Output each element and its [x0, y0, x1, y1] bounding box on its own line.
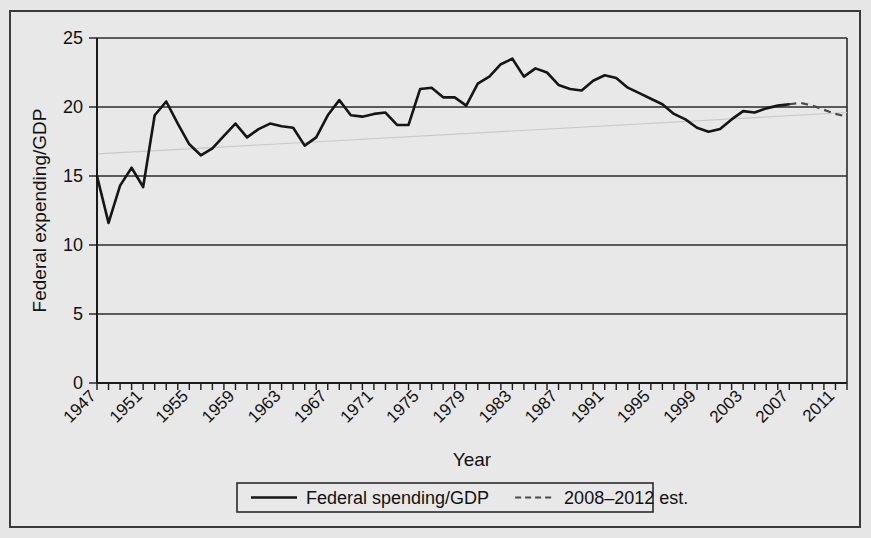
x-tick-label-1967: 1967 [290, 386, 330, 426]
x-tick-label-1975: 1975 [383, 386, 423, 426]
y-tick-label-15: 15 [63, 166, 83, 186]
y-axis-title: Federal expending/GDP [29, 109, 50, 313]
legend-label-0: Federal spending/GDP [306, 488, 489, 508]
y-tick-label-20: 20 [63, 97, 83, 117]
x-tick-label-1963: 1963 [244, 386, 284, 426]
x-axis-title: Year [453, 449, 492, 470]
x-tick-label-1971: 1971 [337, 386, 377, 426]
x-tick-label-1959: 1959 [198, 386, 238, 426]
x-tick-label-2003: 2003 [706, 386, 746, 426]
x-tick-label-1951: 1951 [106, 386, 146, 426]
x-tick-label-1995: 1995 [613, 386, 653, 426]
x-tick-label-2011: 2011 [799, 386, 838, 425]
x-tick-label-1979: 1979 [429, 386, 469, 426]
x-tick-label-1947: 1947 [60, 386, 100, 426]
legend-label-1: 2008–2012 est. [564, 488, 688, 508]
y-tick-label-5: 5 [73, 304, 83, 324]
y-tick-label-10: 10 [63, 235, 83, 255]
x-tick-label-1991: 1991 [567, 386, 607, 426]
line-chart: 0510152025194719511955195919631967197119… [0, 0, 871, 538]
x-tick-label-1983: 1983 [475, 386, 515, 426]
x-tick-label-1955: 1955 [152, 386, 192, 426]
plot-area-background [97, 38, 847, 383]
y-tick-label-25: 25 [63, 28, 83, 48]
figure-page: 0510152025194719511955195919631967197119… [0, 0, 871, 538]
x-tick-label-1999: 1999 [660, 386, 700, 426]
x-tick-label-1987: 1987 [521, 386, 561, 426]
x-tick-label-2007: 2007 [752, 386, 792, 426]
